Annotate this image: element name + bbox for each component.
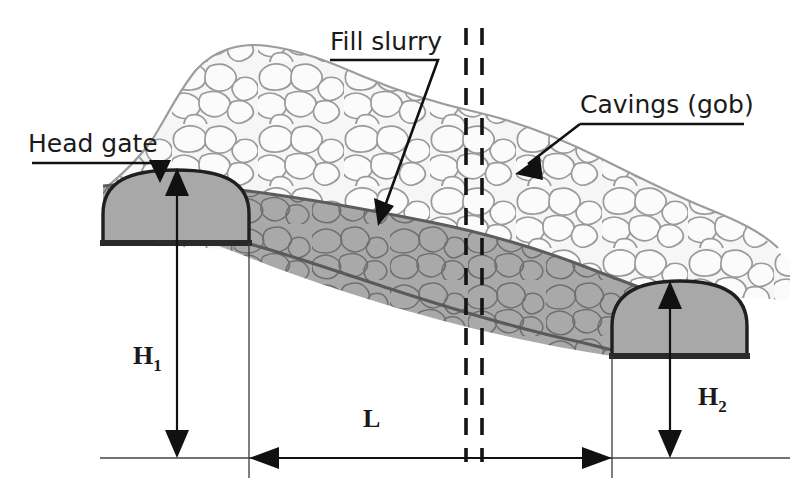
head-gate-label: Head gate (28, 129, 158, 158)
mining-cross-section-diagram: H1 H2 L Head gate Fill slurry Cavings (g… (0, 0, 812, 502)
diagram-canvas: H1 H2 L Head gate Fill slurry Cavings (g… (0, 0, 812, 502)
l-label: L (363, 404, 380, 433)
h2-dimension-arrow (658, 281, 682, 458)
l-dimension-arrow (249, 447, 612, 469)
h1-label: H1 (133, 341, 162, 375)
cavings-gob-label: Cavings (gob) (580, 90, 754, 119)
h2-label: H2 (698, 382, 727, 416)
fill-slurry-label: Fill slurry (330, 27, 442, 56)
tail-gate-arch (609, 281, 750, 356)
